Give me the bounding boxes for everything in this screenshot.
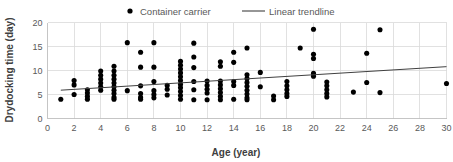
x-tick-label: 26 xyxy=(388,123,398,133)
data-point xyxy=(72,82,77,87)
data-point xyxy=(218,64,223,69)
data-point xyxy=(165,87,170,92)
data-point xyxy=(151,65,156,70)
data-point xyxy=(364,80,369,85)
data-point xyxy=(151,95,156,100)
data-point xyxy=(151,79,156,84)
data-points xyxy=(58,27,449,103)
legend-label-container-carrier: Container carrier xyxy=(140,6,211,17)
legend: Container carrier Linear trendline xyxy=(127,6,334,17)
data-point xyxy=(138,65,143,70)
y-tick-label: 15 xyxy=(32,42,42,52)
data-point xyxy=(125,88,130,93)
data-point xyxy=(165,92,170,97)
x-tick-label: 28 xyxy=(415,123,425,133)
data-point xyxy=(364,51,369,56)
legend-marker-container-carrier xyxy=(127,8,132,13)
data-point xyxy=(231,97,236,102)
data-point xyxy=(191,97,196,102)
x-tick-label: 4 xyxy=(98,123,103,133)
data-point xyxy=(311,27,316,32)
data-point xyxy=(191,55,196,60)
data-point xyxy=(205,97,210,102)
x-tick-label: 10 xyxy=(175,123,185,133)
data-point xyxy=(178,97,183,102)
scatter-chart: 024681012141618202224262830 05101520 Age… xyxy=(0,0,453,162)
y-tick-labels: 05101520 xyxy=(32,18,42,124)
data-point xyxy=(98,88,103,93)
data-point xyxy=(351,90,356,95)
x-tick-label: 0 xyxy=(45,123,50,133)
data-point xyxy=(138,97,143,102)
data-point xyxy=(244,97,249,102)
x-tick-label: 24 xyxy=(362,123,372,133)
data-point xyxy=(258,70,263,75)
data-point xyxy=(151,40,156,45)
y-tick-label: 5 xyxy=(37,90,42,100)
data-point xyxy=(324,94,329,99)
data-point xyxy=(231,60,236,65)
data-point xyxy=(191,41,196,46)
x-tick-labels: 024681012141618202224262830 xyxy=(45,123,452,133)
x-tick-label: 12 xyxy=(202,123,212,133)
y-tick-label: 20 xyxy=(32,18,42,28)
data-point xyxy=(111,64,116,69)
x-tick-label: 16 xyxy=(255,123,265,133)
data-point xyxy=(191,65,196,70)
legend-label-linear-trendline: Linear trendline xyxy=(269,6,335,17)
x-tick-label: 8 xyxy=(151,123,156,133)
data-point xyxy=(205,91,210,96)
data-point xyxy=(191,87,196,92)
y-axis-title: Drydocking time (day) xyxy=(4,17,15,122)
data-point xyxy=(258,84,263,89)
x-tick-label: 18 xyxy=(282,123,292,133)
y-tick-label: 10 xyxy=(32,66,42,76)
data-point xyxy=(311,56,316,61)
data-point xyxy=(111,97,116,102)
x-tick-label: 22 xyxy=(335,123,345,133)
chart-canvas: 024681012141618202224262830 05101520 Age… xyxy=(0,0,453,162)
x-tick-label: 6 xyxy=(125,123,130,133)
y-tick-label: 0 xyxy=(37,114,42,124)
data-point xyxy=(377,90,382,95)
data-point xyxy=(244,45,249,50)
data-point xyxy=(218,97,223,102)
data-point xyxy=(271,97,276,102)
x-tick-label: 20 xyxy=(308,123,318,133)
data-point xyxy=(231,83,236,88)
data-point xyxy=(377,27,382,32)
x-tick-label: 2 xyxy=(72,123,77,133)
data-point xyxy=(444,81,449,86)
data-point xyxy=(58,97,63,102)
x-axis-title: Age (year) xyxy=(212,147,261,158)
data-point xyxy=(85,97,90,102)
x-tick-label: 30 xyxy=(441,123,451,133)
data-point xyxy=(125,40,130,45)
data-point xyxy=(284,94,289,99)
data-point xyxy=(231,50,236,55)
data-point xyxy=(72,92,77,97)
x-tick-label: 14 xyxy=(229,123,239,133)
data-point xyxy=(138,50,143,55)
data-point xyxy=(298,45,303,50)
